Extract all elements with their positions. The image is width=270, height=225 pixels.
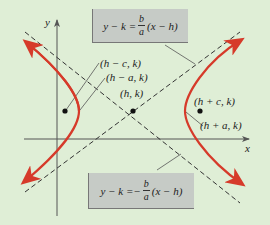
hyperbola-diagram: y x (h − c, k) (h − a, k) (h, k) (h + c,… xyxy=(0,0,270,225)
equation-lhs: y − k = xyxy=(101,185,134,197)
fraction-b-over-a: b a xyxy=(143,179,150,202)
leader-bottom-equation xyxy=(157,154,181,170)
y-axis-label: y xyxy=(45,17,50,28)
equation-sign: − xyxy=(133,185,140,197)
left-vertex-label: (h − a, k) xyxy=(106,72,148,83)
equation-lhs: y − k = xyxy=(103,20,136,32)
center-point xyxy=(130,108,135,113)
right-focus-label: (h + c, k) xyxy=(194,96,235,107)
center-label: (h, k) xyxy=(120,88,143,99)
leader-top-equation xyxy=(165,45,195,64)
leader-left-focus xyxy=(66,63,99,110)
equation-rhs: (x − h) xyxy=(147,20,178,32)
left-focus-label: (h − c, k) xyxy=(100,58,141,69)
left-branch xyxy=(24,42,79,182)
left-branch-top-arrow xyxy=(26,42,79,111)
x-axis-label: x xyxy=(245,143,250,154)
leader-left-vertex xyxy=(80,78,105,110)
right-focus-point xyxy=(197,108,202,113)
asymptote-equation-negative: y − k = − b a (x − h) xyxy=(88,173,194,209)
fraction-b-over-a: b a xyxy=(138,14,145,37)
left-focus-point xyxy=(62,108,67,113)
right-vertex-label: (h + a, k) xyxy=(200,120,242,131)
asymptote-equation-positive: y − k = b a (x − h) xyxy=(92,9,188,43)
equation-rhs: (x − h) xyxy=(152,185,183,197)
